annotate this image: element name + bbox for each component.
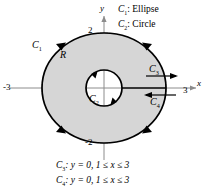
- curve-label-c1-subscript: 1: [39, 45, 42, 52]
- x-axis-arrowhead: [190, 85, 196, 90]
- figure-container: y x -3 3 2 -2 C1 C2 C3 C4 R C1: Ellipse …: [0, 0, 208, 193]
- curve-label-c1: C1: [32, 40, 42, 52]
- region-label-r: R: [60, 50, 66, 60]
- x-tick-label-minus3: -3: [3, 83, 11, 92]
- caption-c3-text: : y = 0, 1 ≤ x ≤ 3: [65, 160, 129, 170]
- y-tick-label-plus2: 2: [88, 26, 93, 35]
- curve-label-c2: C2: [89, 94, 99, 106]
- curve-label-c3: C3: [149, 64, 159, 76]
- legend-c2-text: : Circle: [127, 19, 155, 29]
- curve-label-c3-subscript: 3: [156, 69, 159, 76]
- x-axis-label: x: [197, 79, 201, 88]
- curve-label-c4-symbol: C: [150, 96, 157, 107]
- legend-row-c2: C2: Circle: [118, 18, 159, 33]
- x-tick-label-plus3: 3: [183, 86, 188, 95]
- y-axis-arrowhead: [101, 16, 106, 22]
- legend-c1-text: : Ellipse: [127, 4, 158, 14]
- caption-c4-text: : y = 0, 1 ≤ x ≤ 3: [65, 175, 129, 185]
- curve-label-c2-symbol: C: [89, 93, 96, 104]
- curve-label-c1-symbol: C: [32, 39, 39, 50]
- y-axis-label: y: [100, 4, 104, 13]
- curve-label-c2-subscript: 2: [96, 99, 99, 106]
- caption-row-c3: C3: y = 0, 1 ≤ x ≤ 3: [56, 159, 129, 174]
- y-tick-label-minus2: -2: [85, 138, 93, 147]
- caption-row-c4: C4: y = 0, 1 ≤ x ≤ 3: [56, 174, 129, 189]
- c3-arrowhead-right: [170, 73, 178, 79]
- caption: C3: y = 0, 1 ≤ x ≤ 3 C4: y = 0, 1 ≤ x ≤ …: [56, 159, 129, 189]
- legend-row-c1: C1: Ellipse: [118, 3, 159, 18]
- curve-label-c3-symbol: C: [149, 63, 156, 74]
- curve-label-c4-subscript: 4: [157, 102, 160, 109]
- curve-label-c4: C4: [150, 97, 160, 109]
- legend: C1: Ellipse C2: Circle: [118, 3, 159, 32]
